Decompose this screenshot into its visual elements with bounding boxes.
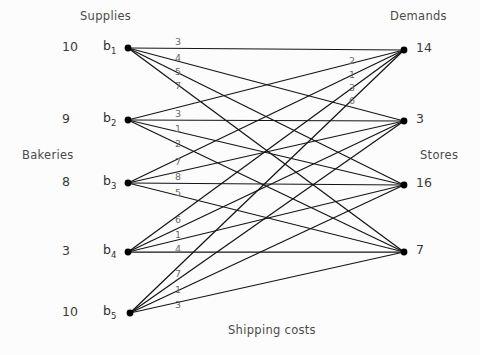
cost-label-right-1: 2 <box>349 55 355 66</box>
cost-label-left-4: 7 <box>175 80 181 91</box>
node-bakery-5 <box>127 310 134 317</box>
demand-value-s1: 14 <box>416 42 432 55</box>
cost-label-right-2: 1 <box>349 69 355 80</box>
edge-b5-s4 <box>130 252 404 313</box>
edge-b5-s3 <box>130 185 404 313</box>
supply-value-b2: 9 <box>62 113 70 126</box>
cost-label-left-3: 5 <box>175 66 181 77</box>
bakery-node-label-3: b3 <box>103 175 116 190</box>
stores-axis-label: Stores <box>420 150 458 162</box>
diagram-caption: Shipping costs <box>228 325 316 337</box>
bakery-subscript: 5 <box>111 311 116 321</box>
cost-label-left-13: 4 <box>175 243 181 254</box>
bakery-symbol: b <box>103 110 111 125</box>
bakery-node-label-4: b4 <box>103 244 116 259</box>
demand-value-s4: 7 <box>416 244 424 257</box>
supply-value-b4: 3 <box>62 245 70 258</box>
diagram-canvas: 34573127856147132136 Supplies Demands Ba… <box>0 0 480 355</box>
bakery-symbol: b <box>103 173 111 188</box>
cost-label-left-10: 5 <box>175 187 181 198</box>
bakery-node-label-2: b2 <box>103 112 116 127</box>
node-store-2 <box>401 118 408 125</box>
node-bakery-2 <box>125 117 132 124</box>
bakery-symbol: b <box>103 38 111 53</box>
node-bakery-1 <box>125 45 132 52</box>
cost-label-left-11: 6 <box>175 214 181 225</box>
cost-label-left-2: 4 <box>175 52 181 63</box>
cost-label-left-16: 3 <box>175 299 181 310</box>
supplies-header: Supplies <box>80 11 131 23</box>
node-store-4 <box>401 249 408 256</box>
bakery-subscript: 4 <box>111 250 116 260</box>
node-store-3 <box>401 182 408 189</box>
cost-label-left-9: 8 <box>175 171 181 182</box>
bakery-node-label-1: b1 <box>103 40 116 55</box>
edge-b5-s1 <box>130 50 404 313</box>
cost-label-right-3: 3 <box>349 82 355 93</box>
edge-b2-s2 <box>128 120 404 121</box>
demand-value-s2: 3 <box>416 113 424 126</box>
node-bakery-4 <box>125 249 132 256</box>
supply-value-b1: 10 <box>62 41 78 54</box>
bakery-symbol: b <box>103 303 111 318</box>
demands-header: Demands <box>390 11 447 23</box>
bakeries-axis-label: Bakeries <box>22 150 74 162</box>
node-store-1 <box>401 47 408 54</box>
cost-label-left-1: 3 <box>175 36 181 47</box>
cost-label-right-4: 6 <box>349 95 355 106</box>
bakery-subscript: 2 <box>111 118 116 128</box>
cost-label-left-7: 2 <box>175 138 181 149</box>
node-bakery-3 <box>125 180 132 187</box>
cost-label-left-8: 7 <box>175 156 181 167</box>
bakery-subscript: 3 <box>111 181 116 191</box>
edge-b1-s1 <box>128 48 404 50</box>
edges-group <box>128 48 404 313</box>
demand-value-s3: 16 <box>416 177 432 190</box>
bakery-node-label-5: b5 <box>103 305 116 320</box>
bakery-subscript: 1 <box>111 46 116 56</box>
supply-value-b5: 10 <box>62 306 78 319</box>
cost-label-left-6: 1 <box>175 123 181 134</box>
cost-label-left-5: 3 <box>175 108 181 119</box>
cost-label-left-14: 7 <box>175 268 181 279</box>
supply-value-b3: 8 <box>62 176 70 189</box>
bakery-symbol: b <box>103 242 111 257</box>
edge-b3-s1 <box>128 50 404 183</box>
cost-label-left-15: 1 <box>175 284 181 295</box>
cost-label-left-12: 1 <box>175 229 181 240</box>
